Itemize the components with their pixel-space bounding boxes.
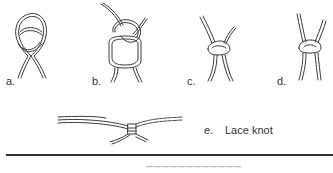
knot-figure-a: [10, 8, 55, 80]
horizontal-rule: [6, 154, 333, 156]
knot-figure-b: [95, 2, 155, 84]
knot-figure-e: [56, 112, 186, 146]
figure-label-b: b.: [92, 75, 101, 87]
figure-caption-e: Lace knot: [225, 124, 273, 136]
figure-label-a: a.: [6, 75, 15, 87]
clipped-footer-text: ▔▔▔▔▔▔▔▔▔▔▔▔: [146, 166, 242, 173]
knot-figure-d: [293, 12, 328, 82]
figure-label-d: d.: [277, 75, 286, 87]
figure-label-c: c.: [187, 75, 196, 87]
figure-label-e: e.: [204, 124, 213, 136]
knot-figure-c: [198, 15, 238, 83]
